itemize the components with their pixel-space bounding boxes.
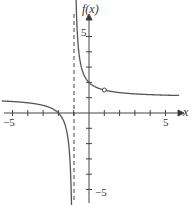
y-tick-label-5: 5 bbox=[81, 27, 87, 38]
x-axis-label: x bbox=[183, 106, 188, 118]
y-tick-label-neg5: −5 bbox=[95, 187, 107, 198]
x-tick-label-5: 5 bbox=[163, 117, 169, 128]
function-graph bbox=[0, 0, 192, 205]
y-axis-label: f(x) bbox=[82, 3, 99, 15]
open-circle-point bbox=[102, 88, 106, 92]
x-tick-label-neg5: −5 bbox=[3, 117, 15, 128]
